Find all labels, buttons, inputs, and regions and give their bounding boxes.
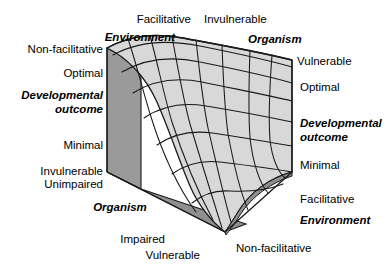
label-invulnerable-left: Invulnerable xyxy=(40,165,103,177)
diagram-canvas: Facilitative Environment Non-facilitativ… xyxy=(0,0,390,269)
label-unimpaired-left: Unimpaired xyxy=(44,178,103,190)
label-environment-top: Environment xyxy=(105,31,176,43)
label-vulnerable-top-right: Vulnerable xyxy=(297,55,352,67)
label-non-facilitative-bottom: Non-facilitative xyxy=(236,242,311,254)
label-outcome-left-line2: outcome xyxy=(55,103,104,115)
label-facilitative-right: Facilitative xyxy=(300,193,354,205)
label-invulnerable-top: Invulnerable xyxy=(204,13,267,25)
label-vulnerable-bottom: Vulnerable xyxy=(145,249,200,261)
label-organism-top: Organism xyxy=(248,33,302,45)
label-developmental-left-line1: Developmental xyxy=(21,89,104,101)
label-organism-bottom: Organism xyxy=(93,201,147,213)
label-impaired-bottom: Impaired xyxy=(120,233,165,245)
label-facilitative-top: Facilitative xyxy=(137,13,191,25)
label-non-facilitative-top: Non-facilitative xyxy=(28,43,103,55)
label-optimal-left: Optimal xyxy=(63,67,103,79)
label-outcome-right-line2: outcome xyxy=(300,131,349,143)
surface-diagram-figure: Facilitative Environment Non-facilitativ… xyxy=(0,0,390,269)
label-minimal-left: Minimal xyxy=(63,139,103,151)
label-optimal-right: Optimal xyxy=(300,81,340,93)
label-minimal-right: Minimal xyxy=(300,159,340,171)
label-developmental-right-line1: Developmental xyxy=(300,117,383,129)
label-environment-right: Environment xyxy=(300,214,371,226)
